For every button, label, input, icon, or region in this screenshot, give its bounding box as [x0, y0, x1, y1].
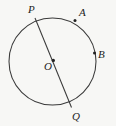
diameter-line-pq: [35, 18, 72, 108]
label-point-q: Q: [72, 111, 80, 122]
point-dot-a: [74, 19, 77, 22]
label-point-p: P: [28, 4, 35, 15]
label-point-a: A: [79, 7, 86, 18]
center-point-dot-o: [52, 59, 55, 62]
figure-canvas: [0, 0, 116, 126]
circle-diagram-figure: P A B O Q: [0, 0, 116, 126]
point-dot-b: [93, 52, 96, 55]
label-center-o: O: [44, 61, 52, 72]
label-point-b: B: [98, 49, 105, 60]
